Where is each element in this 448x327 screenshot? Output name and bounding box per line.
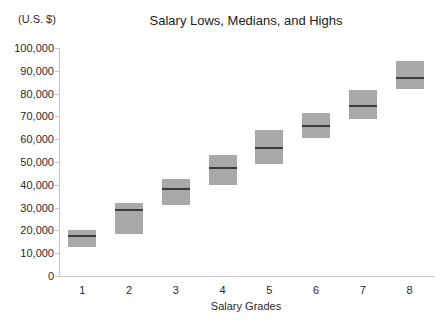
median-line-grade-2: [115, 209, 143, 211]
salary-range-box-grade-5: [255, 130, 283, 164]
y-axis-tick-label: 90,000: [2, 66, 54, 77]
salary-range-box-grade-4: [209, 155, 237, 185]
y-axis-tick-mark: [55, 162, 59, 163]
salary-range-box-grade-6: [302, 113, 330, 138]
plot-area: [59, 48, 434, 277]
y-axis-tick-mark: [55, 185, 59, 186]
salary-range-box-grade-7: [349, 90, 377, 119]
median-line-grade-6: [302, 125, 330, 127]
x-axis-tick-label: 3: [161, 284, 191, 296]
y-axis-tick-mark: [55, 230, 59, 231]
y-axis-tick-mark: [55, 71, 59, 72]
chart-title: Salary Lows, Medians, and Highs: [59, 13, 433, 28]
y-axis-tick-label: 80,000: [2, 89, 54, 100]
x-axis-tick-label: 7: [348, 284, 378, 296]
median-line-grade-4: [209, 167, 237, 169]
salary-range-box-grade-1: [68, 230, 96, 247]
y-axis-tick-label: 60,000: [2, 134, 54, 145]
salary-structure-chart: (U.S. $) Salary Lows, Medians, and Highs…: [0, 0, 448, 327]
median-line-grade-3: [162, 188, 190, 190]
median-line-grade-7: [349, 105, 377, 107]
y-axis-tick-mark: [55, 94, 59, 95]
x-axis-tick-label: 2: [114, 284, 144, 296]
y-axis-tick-mark: [55, 253, 59, 254]
x-axis-tick-label: 5: [254, 284, 284, 296]
y-axis-tick-label: 0: [2, 271, 54, 282]
y-axis-tick-mark: [55, 139, 59, 140]
y-axis-tick-label: 40,000: [2, 180, 54, 191]
median-line-grade-8: [396, 77, 424, 79]
y-axis-tick-mark: [55, 276, 59, 277]
salary-range-box-grade-2: [115, 203, 143, 234]
x-axis-title: Salary Grades: [59, 300, 433, 312]
y-axis-tick-label: 50,000: [2, 157, 54, 168]
x-axis-tick-label: 8: [395, 284, 425, 296]
y-axis-tick-label: 70,000: [2, 111, 54, 122]
y-axis-tick-label: 10,000: [2, 248, 54, 259]
y-axis-unit-label: (U.S. $): [18, 13, 56, 25]
x-axis-tick-label: 1: [67, 284, 97, 296]
y-axis-tick-mark: [55, 48, 59, 49]
y-axis-tick-mark: [55, 208, 59, 209]
median-line-grade-1: [68, 235, 96, 237]
x-axis-tick-label: 4: [208, 284, 238, 296]
y-axis-tick-label: 30,000: [2, 203, 54, 214]
y-axis-tick-label: 100,000: [2, 43, 54, 54]
median-line-grade-5: [255, 147, 283, 149]
salary-range-box-grade-3: [162, 179, 190, 205]
y-axis-tick-label: 20,000: [2, 225, 54, 236]
y-axis-tick-mark: [55, 116, 59, 117]
salary-range-box-grade-8: [396, 61, 424, 90]
x-axis-tick-label: 6: [301, 284, 331, 296]
